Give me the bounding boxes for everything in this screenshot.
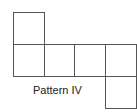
net-square-row-1	[13, 44, 45, 77]
net-square-row-3	[74, 44, 106, 77]
net-square-row-4	[105, 44, 137, 77]
net-square-bottom	[105, 76, 137, 109]
net-square-top	[13, 12, 45, 45]
net-square-row-2	[44, 44, 75, 77]
pattern-caption: Pattern IV	[33, 84, 82, 96]
